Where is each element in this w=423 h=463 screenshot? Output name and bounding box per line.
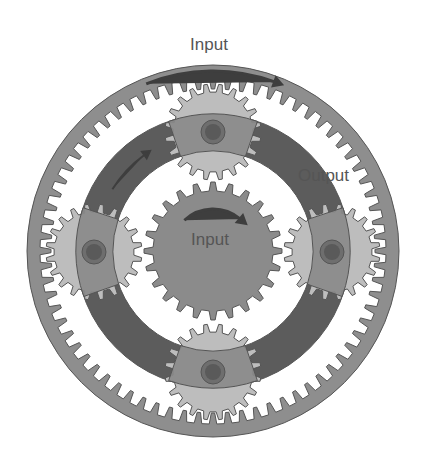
planet-pin-core-bottom [205,364,221,380]
planet-pin-core-right [324,244,340,260]
ring-input-label: Input [190,35,228,54]
sun-gear [144,182,282,320]
sun-gear-shape [144,182,282,320]
planetary-gear-diagram: Input Input Output [0,0,423,463]
planet-pin-core-top [205,124,221,140]
planet-pin-core-left [86,244,102,260]
carrier-output-label: Output [298,166,349,185]
sun-input-label: Input [191,230,229,249]
